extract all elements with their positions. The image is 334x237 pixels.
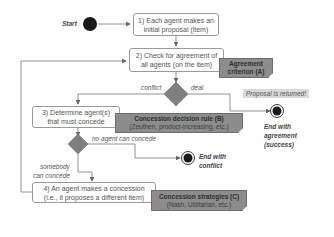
end-conflict-label: End with conflict [199,152,226,170]
edge-label-no-agent: no agent can concede [92,134,156,143]
step-1-initial-proposal: 1) Each agent makes an initial proposal … [133,13,219,36]
edge-label-conflict: conflict [141,83,161,92]
start-label: Start [62,19,77,28]
edge-label-somebody: somebody can concede [33,162,70,180]
concession-strategies-note: Concession strategies (C) (Nash, Utilita… [151,190,247,211]
decision-diamond-concede [68,134,88,154]
decision-diamond-deal [164,82,188,106]
agreement-criterion-note: Agreement criterion (A) [219,58,273,78]
concession-decision-rule-note: Concession decision rule (B) (Zeuthen, p… [115,113,243,133]
edge-label-deal: deal [191,83,203,92]
end-agreement-label: End with agreement (success) [264,122,297,149]
proposal-returned-label: Proposal is returned! [243,89,309,98]
step-2-check-agreement: 2) Check for agreement of all agents (on… [129,48,224,72]
step-4-make-concession: 4) An agent makes a concession (i.e., it… [32,182,156,203]
start-node [83,17,97,31]
step-3-determine-conceder: 3) Determine agent(s) that must concede [32,106,120,128]
